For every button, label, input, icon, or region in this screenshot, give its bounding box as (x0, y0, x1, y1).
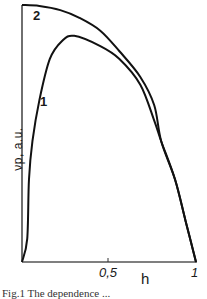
curve-1-label: 1 (40, 94, 47, 109)
curve-2 (22, 5, 196, 262)
x-tick-label-1: 1 (191, 265, 198, 280)
y-axis-label: νp, a.u. (11, 109, 25, 189)
x-tick-label-0.5: 0,5 (99, 265, 117, 280)
curve-1 (22, 36, 196, 262)
figure-caption: Fig.1 The dependence ... (2, 287, 110, 299)
x-axis-label: h (141, 270, 149, 287)
curve-2-label: 2 (33, 8, 40, 23)
